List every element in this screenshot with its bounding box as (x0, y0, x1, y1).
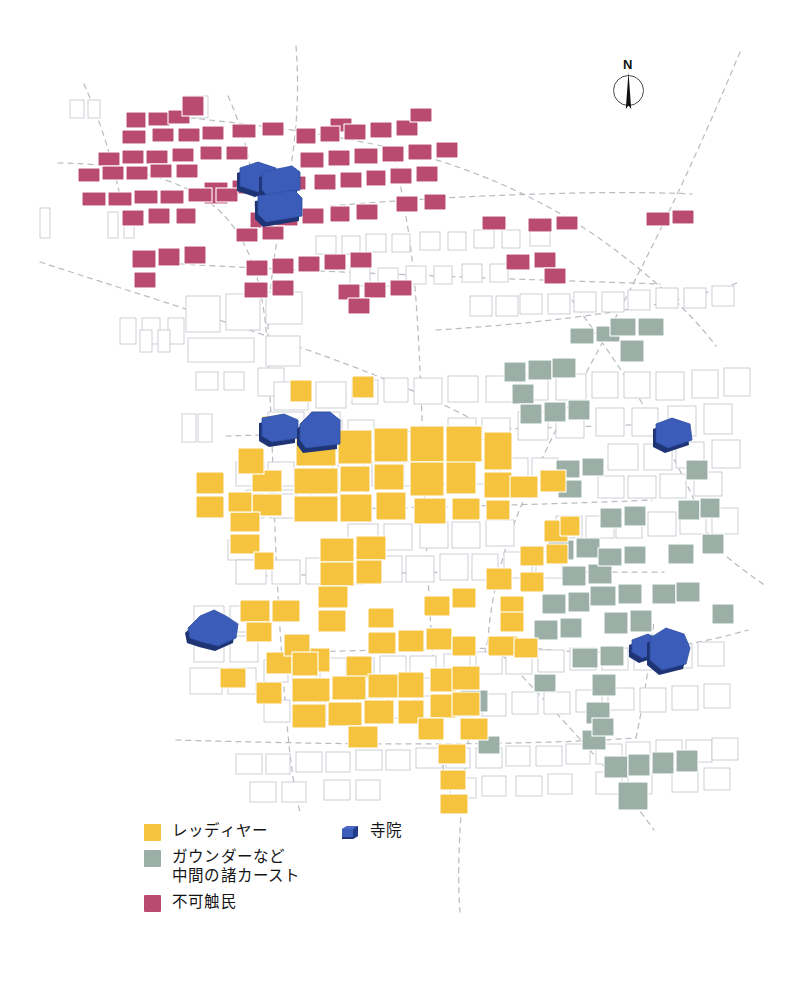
reddiyar-building (220, 668, 246, 688)
untouchable-building (436, 142, 458, 158)
plot-outline (672, 686, 698, 710)
reddiyar-building (484, 472, 512, 498)
plot-outline (420, 232, 440, 250)
middle-caste-building (620, 340, 644, 362)
untouchable-building (134, 272, 156, 288)
plot-outline (282, 782, 306, 802)
untouchable-building (506, 254, 530, 270)
plot-outline (384, 524, 412, 550)
reddiyar-building (440, 794, 468, 814)
reddiyar-building (452, 666, 480, 690)
reddiyar-building (368, 632, 396, 654)
legend-label-middle-castes: ガウンダーなど 中間の諸カースト (172, 848, 301, 886)
middle-caste-building (582, 458, 604, 476)
middle-caste-building (560, 618, 582, 638)
reddiyar-building (460, 718, 488, 740)
reddiyar-building (560, 516, 580, 536)
untouchable-building (158, 248, 180, 266)
middle-caste-building (592, 718, 614, 736)
middle-caste-building (598, 548, 622, 566)
middle-caste-building (572, 648, 598, 668)
middle-caste-building (630, 610, 652, 632)
plot-outline (120, 318, 136, 344)
middle-caste-building (668, 544, 694, 564)
reddiyar-building (510, 476, 538, 498)
reddiyar-building (290, 380, 312, 402)
plot-outline (266, 292, 302, 324)
middle-caste-building (600, 508, 622, 528)
plot-outline (502, 230, 520, 248)
reddiyar-building (254, 552, 274, 570)
middle-caste-building (534, 620, 558, 640)
reddiyar-building (338, 430, 372, 464)
temple-top-face (258, 190, 302, 222)
temple-top-face (650, 628, 690, 670)
reddiyar-building (320, 538, 354, 562)
plot-outline (608, 444, 638, 470)
reddiyar-building (348, 726, 378, 748)
untouchable-building (122, 210, 144, 226)
reddiyar-building (440, 770, 466, 790)
untouchable-building (122, 150, 144, 164)
reddiyar-building (398, 630, 424, 652)
reddiyar-building (318, 586, 348, 608)
plot-outline (684, 288, 706, 308)
plot-outline (250, 782, 276, 802)
plot-outline (512, 692, 538, 714)
plot-outline (462, 264, 482, 282)
untouchable-building (178, 128, 200, 142)
untouchable-building (314, 174, 336, 190)
untouchable-building (272, 280, 294, 296)
untouchable-building (298, 256, 320, 272)
plot-outline (598, 476, 624, 498)
reddiyar-building (196, 472, 224, 494)
plot-outline (316, 382, 346, 408)
untouchable-building (348, 298, 370, 314)
plot-outline (628, 290, 650, 310)
plot-outline (704, 768, 730, 790)
north-arrow: N (604, 58, 652, 140)
untouchable-building (408, 144, 432, 160)
reddiyar-building (540, 470, 566, 492)
plot-outline (574, 292, 596, 312)
untouchable-building (150, 164, 172, 178)
untouchable-building (320, 126, 340, 142)
untouchable-building (82, 192, 106, 206)
plot-outline (602, 292, 624, 312)
reddiyar-building (368, 674, 402, 698)
plot-outline (656, 288, 678, 308)
reddiyar-building (228, 492, 252, 512)
reddiyar-building (196, 496, 224, 518)
reddiyar-building (376, 492, 406, 520)
reddiyar-building (230, 512, 260, 532)
plot-outline (196, 372, 218, 390)
plot-outline (698, 642, 724, 666)
reddiyar-building (246, 622, 272, 642)
plot-outline (640, 688, 666, 712)
legend-column-temple: 寺院 (340, 822, 520, 848)
plot-outline (182, 414, 196, 442)
untouchable-building (672, 210, 694, 224)
plot-outline (326, 752, 350, 772)
untouchable-building (146, 150, 168, 164)
legend-swatch-reddiyar (144, 824, 161, 841)
untouchable-building (78, 168, 100, 182)
plot-outline (672, 770, 698, 792)
legend-item-temple: 寺院 (340, 822, 520, 841)
plot-outline (448, 376, 478, 402)
middle-caste-building (534, 674, 556, 692)
untouchable-building (244, 282, 268, 298)
untouchable-building (356, 204, 378, 220)
untouchable-building (296, 128, 316, 144)
reddiyar-building (230, 534, 260, 554)
middle-caste-building (562, 566, 586, 586)
plot-outline (592, 372, 618, 398)
reddiyar-building (328, 702, 362, 726)
untouchable-building (646, 212, 670, 226)
reddiyar-building (410, 462, 444, 496)
plot-outline (516, 776, 542, 796)
plot-outline (506, 746, 530, 766)
plot-outline (392, 234, 410, 252)
reddiyar-building (340, 494, 372, 522)
plot-outline (266, 336, 300, 366)
